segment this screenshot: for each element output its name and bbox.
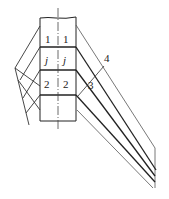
label-callout-3: 3 xyxy=(88,79,94,91)
label-row2-right: 2 xyxy=(63,78,69,90)
label-row1-right: 1 xyxy=(63,33,69,45)
label-row1-left: 1 xyxy=(45,33,51,45)
right-projection-lines xyxy=(76,25,156,188)
label-callout-4: 4 xyxy=(104,52,110,64)
diagram-canvas: 1 1 j j 2 2 3 4 xyxy=(0,0,169,199)
left-projection-lines xyxy=(15,26,40,125)
label-rowj-right: j xyxy=(61,54,66,66)
label-row2-left: 2 xyxy=(44,78,50,90)
label-rowj-left: j xyxy=(43,54,48,66)
